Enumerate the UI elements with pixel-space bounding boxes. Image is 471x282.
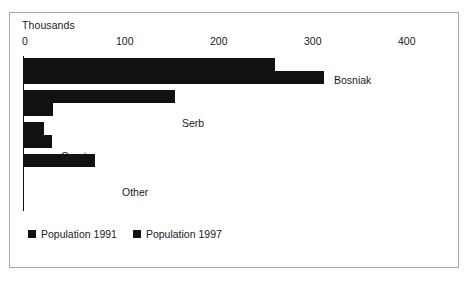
bar-serb-1991 <box>24 90 175 103</box>
legend-item-1: Population 1991 <box>28 228 117 240</box>
category-label-other: Other <box>122 186 148 198</box>
chart-figure: Thousands 0100200300400 BosniakSerbCroat… <box>0 0 471 282</box>
x-tick-label-400: 400 <box>398 35 416 47</box>
x-tick-label-200: 200 <box>210 35 228 47</box>
x-tick-label-300: 300 <box>304 35 322 47</box>
x-tick-label-0: 0 <box>22 35 28 47</box>
category-label-croat: Croat <box>61 150 87 162</box>
category-label-bosniak: Bosniak <box>334 74 371 86</box>
legend-label-2: Population 1997 <box>146 228 222 240</box>
chart-legend: Population 1991Population 1997 <box>28 228 238 240</box>
bar-serb-1997 <box>24 103 53 116</box>
axis-unit-label: Thousands <box>22 19 75 31</box>
bar-croat-1991 <box>24 122 44 135</box>
legend-label-1: Population 1991 <box>41 228 117 240</box>
bar-croat-1997 <box>24 135 52 148</box>
legend-swatch-icon-2 <box>133 230 141 238</box>
legend-swatch-icon-1 <box>28 230 36 238</box>
bar-bosniak-1991 <box>24 58 275 71</box>
bar-bosniak-1997 <box>24 71 324 84</box>
category-label-serb: Serb <box>182 117 204 129</box>
x-tick-label-100: 100 <box>116 35 134 47</box>
legend-item-2: Population 1997 <box>133 228 222 240</box>
plot-area: Thousands 0100200300400 BosniakSerbCroat… <box>0 0 471 282</box>
